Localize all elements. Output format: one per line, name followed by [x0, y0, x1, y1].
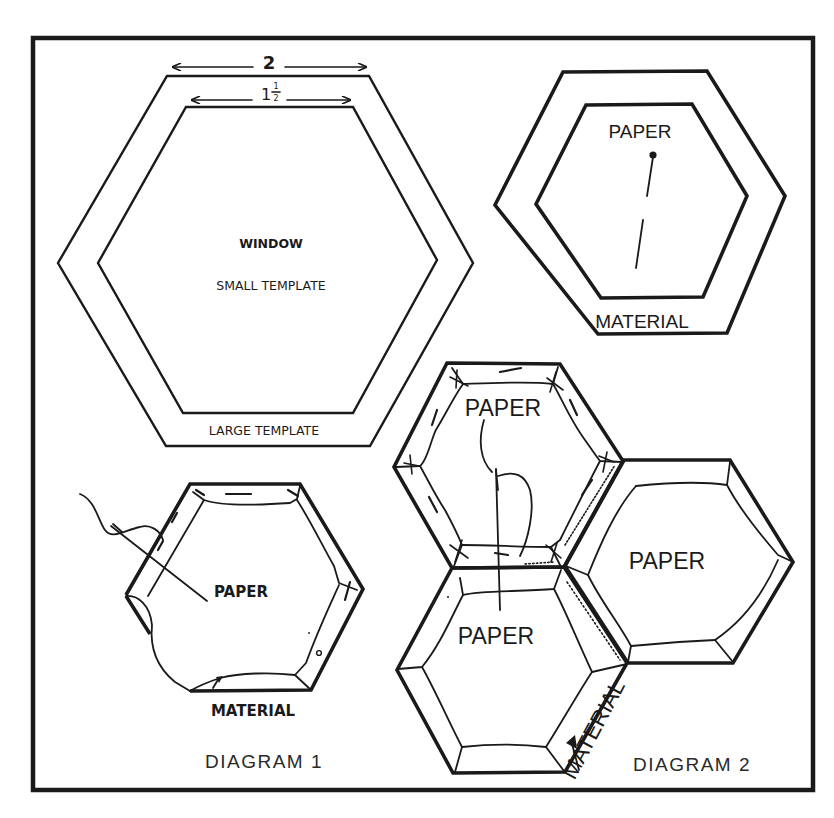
diagram-1-material-label: MATERIAL [211, 702, 296, 720]
diagram-2-top-paper-label: PAPER [465, 395, 541, 421]
diagram-2-material-label: MATERIAL [557, 676, 630, 783]
template-diagram: 2 1 1 2 WINDOW SMALL TEMPLATE LARGE TEMP… [58, 52, 473, 446]
hexagon-patchwork-illustration: 2 1 1 2 WINDOW SMALL TEMPLATE LARGE TEMP… [0, 0, 834, 818]
diagram-1: PAPER MATERIAL DIAGRAM 1 [80, 484, 363, 772]
material-label: MATERIAL [595, 311, 689, 332]
diagram-2: PAPER PAPER PAPE [394, 363, 793, 783]
large-template-label: LARGE TEMPLATE [209, 423, 319, 438]
dimension-inner-width: 1 1 2 [192, 82, 350, 104]
small-template-hexagon [98, 107, 437, 413]
dimension-outer-width: 2 [173, 52, 366, 73]
dimension-inner-whole: 1 [261, 85, 271, 104]
large-template-hexagon [58, 76, 473, 446]
paper-label: PAPER [608, 121, 671, 142]
dimension-outer-label: 2 [263, 52, 276, 73]
diagram-2-bottom-paper-label: PAPER [458, 623, 534, 649]
diagram-1-paper-label: PAPER [214, 583, 268, 601]
pin-icon [636, 151, 657, 268]
small-template-label: SMALL TEMPLATE [216, 278, 325, 293]
window-label: WINDOW [239, 236, 303, 251]
pinned-paper-diagram: PAPER MATERIAL [495, 71, 785, 334]
diagram-2-right-paper-label: PAPER [629, 548, 705, 574]
diagram-1-caption: DIAGRAM 1 [205, 751, 323, 772]
dimension-inner-numerator: 1 [273, 82, 278, 91]
diagram-2-caption: DIAGRAM 2 [633, 754, 751, 775]
dimension-inner-denominator: 2 [273, 94, 278, 103]
